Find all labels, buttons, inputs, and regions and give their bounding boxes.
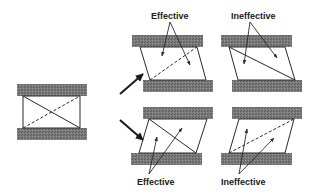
bottom-ineffective-case xyxy=(221,107,302,174)
arrow-down-right-icon xyxy=(120,120,143,140)
original-element xyxy=(17,84,87,140)
top-ineffective-case xyxy=(221,22,302,92)
arrow-up-right-icon xyxy=(120,74,143,94)
label-bottom-ineffective: Ineffective xyxy=(221,177,266,187)
bottom-effective-case xyxy=(131,107,213,174)
label-top-ineffective: Ineffective xyxy=(231,11,276,21)
label-top-effective: Effective xyxy=(151,11,189,21)
top-plate xyxy=(17,84,87,96)
shear-diagram xyxy=(0,0,315,196)
bottom-plate xyxy=(17,128,87,140)
top-effective-case xyxy=(132,22,213,92)
label-bottom-effective: Effective xyxy=(137,177,175,187)
